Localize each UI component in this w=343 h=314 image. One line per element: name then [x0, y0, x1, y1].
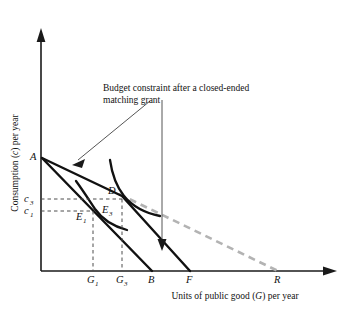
x-tick-label-G1: G 1: [87, 274, 99, 288]
annotation-line-2: matching grant: [103, 95, 161, 105]
x-tick-label-G3-base: G: [116, 274, 124, 285]
indifference-curve-E3-D: [110, 160, 160, 216]
open-ended-grant-budget-line: [119, 194, 278, 271]
y-tick-label-c1: c 1: [24, 205, 34, 219]
budget-line-to-R: [119, 194, 278, 271]
x-tick-label-G1-base: G: [87, 274, 95, 285]
y-tick-label-c3-base: c: [24, 193, 29, 204]
annotation-line-1: Budget constraint after a closed-ended: [103, 83, 249, 93]
annotation-text-group: Budget constraint after a closed-ended m…: [103, 83, 249, 105]
x-axis-tick-labels-group: G 1 G 3 B F R: [87, 274, 281, 288]
leader-arrowhead-upper: [72, 159, 85, 168]
y-axis-title-part-2: ) per year: [10, 113, 21, 150]
segment-A-to-B: [42, 158, 152, 271]
x-tick-label-F: F: [185, 274, 193, 285]
x-axis-arrowhead: [323, 267, 337, 276]
closed-ended-grant-budget-line-ADF: [42, 158, 190, 271]
axis-titles-group: Consumption (c) per year Units of public…: [10, 113, 299, 302]
y-axis-title: Consumption (c) per year: [10, 113, 21, 211]
x-tick-label-B: B: [148, 274, 155, 285]
label-point-D: D: [107, 185, 116, 196]
label-point-E1-base: E: [75, 211, 83, 222]
y-tick-label-c1-subscript: 1: [30, 211, 34, 219]
label-point-A: A: [29, 151, 37, 162]
y-axis-title-part-1: Consumption (: [10, 155, 21, 212]
axes-group: [37, 28, 337, 275]
leader-line-to-budget-upper: [78, 101, 150, 160]
y-tick-label-c3-subscript: 3: [29, 199, 34, 207]
label-point-E3-subscript: 3: [108, 210, 113, 218]
figure-canvas: Budget constraint after a closed-ended m…: [0, 0, 343, 314]
x-tick-label-G1-subscript: 1: [95, 280, 99, 288]
y-tick-label-c1-base: c: [24, 205, 29, 216]
segment-A-D-F: [42, 158, 190, 271]
x-tick-label-G3-subscript: 3: [123, 280, 128, 288]
x-axis-title-part-2: ) per year: [262, 291, 299, 302]
x-tick-label-G3: G 3: [116, 274, 128, 288]
label-point-E3-base: E: [101, 204, 109, 215]
economics-budget-constraint-figure: Budget constraint after a closed-ended m…: [0, 0, 343, 314]
original-budget-line-AB: [42, 158, 152, 271]
label-point-E1-subscript: 1: [83, 217, 87, 225]
label-point-E1: E 1: [75, 211, 87, 225]
label-point-E3: E 3: [101, 204, 113, 218]
y-axis-arrowhead: [37, 28, 46, 42]
y-axis-tick-labels-group: c 3 c 1: [24, 193, 34, 219]
x-tick-label-R: R: [273, 274, 281, 285]
x-axis-title: Units of public good (G) per year: [171, 291, 299, 302]
x-axis-title-part-1: Units of public good (: [171, 291, 255, 302]
